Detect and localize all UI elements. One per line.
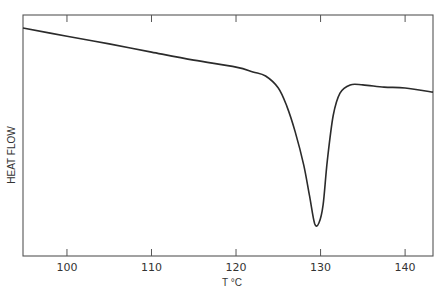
x-tick-label: 120 (226, 261, 247, 274)
x-tick-label: 110 (141, 261, 162, 274)
x-tick-labels: 100110120130140 (56, 261, 415, 274)
heat-flow-curve (23, 28, 433, 226)
plot-frame (23, 15, 433, 256)
x-tick-label: 140 (395, 261, 416, 274)
x-tick-label: 100 (56, 261, 77, 274)
x-ticks (67, 15, 405, 256)
x-axis-title: T °C (222, 277, 242, 288)
x-tick-label: 130 (310, 261, 331, 274)
y-axis-title: HEAT FLOW (6, 126, 17, 184)
plot-border (23, 15, 433, 256)
dsc-chart: 100110120130140 HEAT FLOW T °C (0, 0, 444, 300)
